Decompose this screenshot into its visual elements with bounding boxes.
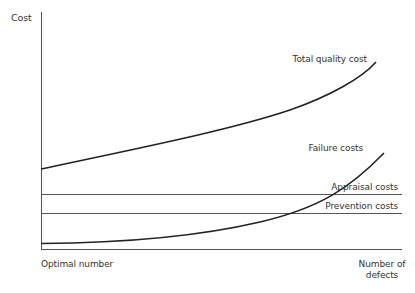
failure-costs-curve [41, 153, 384, 244]
x-axis-label-line1: Number of [353, 259, 411, 270]
prevention-costs-label: Prevention costs [325, 201, 398, 211]
failure-costs-label: Failure costs [308, 143, 363, 153]
appraisal-costs-label: Appraisal costs [331, 182, 398, 192]
x-axis-label: Number of defects [353, 259, 411, 281]
total-quality-cost-label: Total quality cost [293, 54, 367, 64]
x-axis-label-line2: defects [353, 270, 411, 281]
x-tick-optimal-number: Optimal number [41, 259, 113, 269]
y-axis-label: Cost [11, 12, 32, 23]
